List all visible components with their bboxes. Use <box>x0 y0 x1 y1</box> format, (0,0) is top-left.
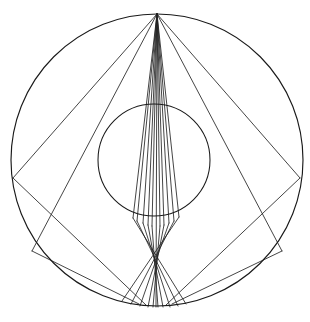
exit-L7 <box>13 178 146 305</box>
ray-R7 <box>157 14 300 178</box>
ray-L4 <box>137 14 157 221</box>
ray-R6 <box>157 14 282 251</box>
exit-L6 <box>32 251 139 304</box>
ray-diagram-svg <box>0 0 310 322</box>
exit-R7 <box>166 178 300 305</box>
figure-container <box>0 0 310 322</box>
exit-R6 <box>172 251 282 304</box>
inner-circle <box>98 104 210 216</box>
exit-L4 <box>137 221 178 306</box>
ray-layer <box>13 14 300 307</box>
ray-L7 <box>13 14 157 178</box>
exit-R5 <box>122 217 179 301</box>
ray-L6 <box>32 14 157 251</box>
